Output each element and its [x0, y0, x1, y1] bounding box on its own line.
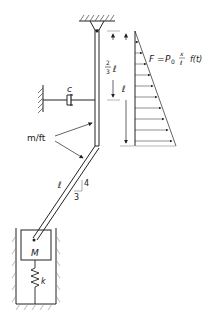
force-x: x: [179, 50, 184, 57]
inclined-rod: [33, 146, 100, 242]
slope-run-label: 3: [74, 193, 79, 202]
damper-label: c: [67, 84, 72, 94]
force-P-subscript: 0: [171, 58, 175, 65]
force-ft: f(t): [190, 55, 202, 64]
pin-joint-mass: [33, 239, 36, 242]
full-length-label: ℓ: [121, 84, 126, 94]
mass-per-length-annotation: m/ft: [27, 123, 92, 158]
diagram-canvas: c m/ft ℓ 4 3 M: [0, 0, 221, 322]
force-equals: =: [157, 54, 165, 64]
mass-spring-assembly: M k: [12, 228, 60, 310]
vertical-rod: [95, 30, 99, 146]
dashpot: c: [38, 84, 95, 113]
mass-label: M: [31, 248, 39, 258]
two-thirds-l: ℓ: [112, 64, 117, 74]
ceiling-support: [79, 15, 115, 33]
lower-rod-length-label: ℓ: [57, 180, 62, 190]
two-thirds-den: 3: [106, 68, 110, 75]
dimension-full-length: ℓ: [120, 34, 134, 146]
dimension-two-thirds: 2 3 ℓ: [105, 31, 120, 100]
pin-joint-top: [96, 30, 99, 33]
force-l: ℓ: [179, 59, 183, 66]
distributed-load: F = P 0 x ℓ f(t): [135, 31, 202, 146]
mass-per-length-label: m/ft: [27, 133, 46, 143]
slope-rise-label: 4: [84, 179, 89, 188]
spring-label: k: [41, 277, 46, 286]
force-F: F: [149, 54, 155, 64]
spring: [31, 260, 39, 304]
two-thirds-num: 2: [106, 59, 110, 66]
